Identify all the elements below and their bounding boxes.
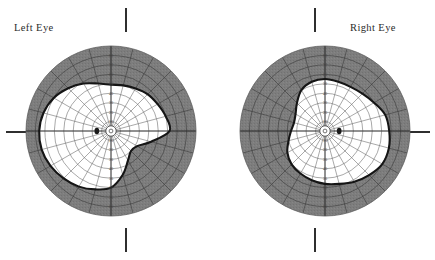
svg-text:10: 10	[109, 119, 113, 124]
svg-text:60: 60	[109, 185, 113, 190]
visual-field-figure: Left Eye Right Eye 101020203030404050506…	[0, 0, 435, 260]
left-chart-top-tick-mark	[125, 8, 127, 32]
svg-text:50: 50	[323, 81, 327, 86]
svg-text:30: 30	[109, 100, 113, 105]
svg-text:40: 40	[323, 166, 327, 171]
svg-text:70: 70	[323, 62, 327, 67]
svg-text:60: 60	[109, 72, 113, 77]
svg-text:20: 20	[109, 110, 113, 115]
right-chart-bottom-tick-mark	[314, 228, 316, 252]
svg-text:10: 10	[323, 138, 327, 143]
svg-text:30: 30	[109, 157, 113, 162]
svg-text:50: 50	[109, 176, 113, 181]
svg-text:10: 10	[323, 119, 327, 124]
svg-text:50: 50	[323, 176, 327, 181]
right-chart-top-tick-mark	[314, 8, 316, 32]
svg-text:20: 20	[323, 147, 327, 152]
svg-text:30: 30	[323, 100, 327, 105]
svg-text:80: 80	[109, 53, 113, 58]
svg-text:20: 20	[323, 110, 327, 115]
svg-text:80: 80	[323, 53, 327, 58]
svg-text:60: 60	[323, 185, 327, 190]
svg-text:40: 40	[109, 91, 113, 96]
svg-text:30: 30	[323, 157, 327, 162]
svg-text:40: 40	[323, 91, 327, 96]
svg-text:70: 70	[323, 195, 327, 200]
svg-text:10: 10	[109, 138, 113, 143]
right-eye-perimetry-chart: 10102020303040405050606070708080	[236, 42, 414, 220]
svg-text:20: 20	[109, 147, 113, 152]
svg-text:80: 80	[109, 204, 113, 209]
svg-text:70: 70	[109, 195, 113, 200]
left-eye-perimetry-chart: 10102020303040405050606070708080	[22, 42, 200, 220]
left-eye-label: Left Eye	[14, 22, 54, 33]
svg-text:50: 50	[109, 81, 113, 86]
left-chart-bottom-tick-mark	[125, 228, 127, 252]
right-eye-label: Right Eye	[350, 22, 396, 33]
svg-text:70: 70	[109, 62, 113, 67]
svg-text:40: 40	[109, 166, 113, 171]
svg-text:80: 80	[323, 204, 327, 209]
svg-text:60: 60	[323, 72, 327, 77]
